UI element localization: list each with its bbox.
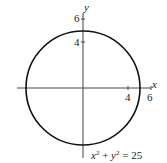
x-tick-label-4: 4: [125, 91, 131, 103]
eq-plus: +: [99, 149, 111, 161]
x-axis-label: x: [151, 78, 157, 90]
y-axis-label: y: [83, 1, 89, 13]
eq-rest: = 25: [120, 149, 143, 161]
circle-graph: x y 4 6 4 6 x2 + y2 = 25: [0, 0, 167, 163]
y-tick-label-6: 6: [74, 12, 80, 24]
y-tick-label-4: 4: [74, 36, 80, 48]
graph-canvas: x y 4 6 4 6 x2 + y2 = 25: [0, 0, 167, 163]
equation-label: x2 + y2 = 25: [90, 149, 143, 161]
x-tick-label-6: 6: [147, 91, 153, 103]
